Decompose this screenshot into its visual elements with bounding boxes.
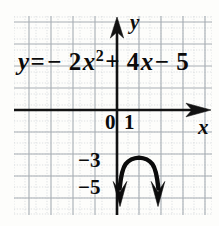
- tick-label-origin: 0: [105, 112, 116, 133]
- equation-term3: − 5: [154, 48, 191, 75]
- tick-label-y-negative-three: −3: [78, 150, 100, 171]
- equation-term2: + 4: [104, 48, 141, 75]
- y-axis-label: y: [130, 12, 139, 33]
- tick-label-y-negative-five: −5: [78, 177, 100, 198]
- equation-equals: =: [30, 48, 47, 75]
- equation-term2-variable: x: [141, 48, 154, 75]
- equation-lhs: y: [18, 48, 30, 75]
- equation-label: y=− 2x2+ 4x− 5: [18, 48, 190, 74]
- x-axis-label: x: [198, 117, 209, 138]
- equation-term1-coefficient: − 2: [46, 48, 83, 75]
- graph-figure: y=− 2x2+ 4x− 5 0 1 −3 −5 y x: [0, 0, 219, 226]
- equation-term1-variable: x: [83, 48, 96, 75]
- tick-label-x-one: 1: [124, 112, 135, 133]
